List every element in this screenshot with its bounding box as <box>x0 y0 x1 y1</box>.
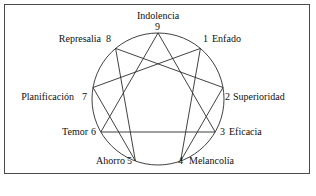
point-label-7: Planificación <box>8 91 74 102</box>
point-number-8: 8 <box>106 33 111 44</box>
point-number-4: 4 <box>178 155 183 166</box>
point-label-8: Represalia <box>29 33 101 44</box>
point-number-1: 1 <box>203 33 208 44</box>
point-label-9: Indolencia <box>122 10 194 21</box>
point-label-4: Melancolía <box>189 155 234 166</box>
point-label-3: Eficacia <box>229 126 262 137</box>
point-number-9: 9 <box>155 21 160 32</box>
point-label-1: Enfado <box>212 33 241 44</box>
point-number-5: 5 <box>127 155 132 166</box>
point-label-6: Temor <box>52 126 88 137</box>
point-number-3: 3 <box>220 126 225 137</box>
point-number-6: 6 <box>91 126 96 137</box>
point-number-2: 2 <box>225 91 230 102</box>
point-label-2: Superioridad <box>233 91 285 102</box>
point-number-7: 7 <box>82 91 87 102</box>
point-label-5: Ahorro <box>87 155 125 166</box>
